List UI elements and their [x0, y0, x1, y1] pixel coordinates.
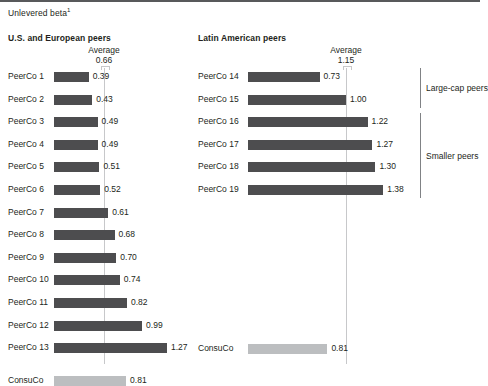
panel-latin-american: Latin American peers Average 1.15 PeerCo… — [198, 33, 480, 45]
bar-row: PeerCo 80.68 — [8, 229, 218, 240]
bar-row: PeerCo 20.43 — [8, 94, 218, 105]
bar — [248, 344, 327, 354]
bar — [54, 72, 89, 82]
average-value-right: 1.15 — [338, 55, 355, 65]
bar — [54, 253, 116, 263]
bar-row-label: PeerCo 18 — [198, 161, 239, 172]
bar-row-label: PeerCo 11 — [8, 297, 48, 308]
bar-row-label: PeerCo 19 — [198, 184, 239, 195]
bracket-line — [420, 113, 421, 198]
bar-row-label: PeerCo 12 — [8, 320, 49, 331]
bar-value-label: 0.70 — [120, 252, 137, 263]
bar — [54, 208, 108, 218]
bar — [54, 376, 126, 386]
chart-subtitle: Unlevered beta1 — [8, 7, 71, 18]
bar-row: PeerCo 110.82 — [8, 297, 218, 308]
bar-value-label: 0.49 — [102, 116, 119, 127]
bar — [54, 343, 167, 353]
average-line-right — [346, 68, 347, 364]
bar-row: PeerCo 151.00 — [198, 94, 480, 105]
bar-value-label: 0.99 — [146, 320, 163, 331]
bar-value-label: 0.39 — [93, 71, 110, 82]
bar-row: PeerCo 120.99 — [8, 320, 218, 331]
bar-row: PeerCo 10.39 — [8, 71, 218, 82]
bar-value-label: 0.43 — [96, 94, 113, 105]
bar — [248, 140, 372, 150]
bracket-label: Large-cap peers — [426, 83, 488, 93]
bar-row: PeerCo 140.73 — [198, 71, 480, 82]
bar-row: PeerCo 60.52 — [8, 184, 218, 195]
bar-row: ConsuCo0.81 — [8, 375, 218, 386]
bar-row: PeerCo 181.30 — [198, 161, 480, 172]
bracket-label: Smaller peers — [426, 151, 478, 161]
bar-row-label: PeerCo 16 — [198, 116, 239, 127]
bar-value-label: 0.81 — [130, 375, 147, 386]
average-label-right: Average 1.15 — [306, 46, 386, 65]
bar — [54, 230, 115, 240]
bar-row: PeerCo 191.38 — [198, 184, 480, 195]
bar-row-label: PeerCo 1 — [8, 71, 44, 82]
bar-value-label: 0.74 — [124, 274, 141, 285]
bar — [54, 321, 142, 331]
bar-row: PeerCo 70.61 — [8, 207, 218, 218]
bar-row-label: PeerCo 14 — [198, 71, 239, 82]
footnote-marker: 1 — [67, 7, 70, 13]
bar-row-label: ConsuCo — [198, 343, 233, 354]
bracket-line — [420, 68, 421, 108]
bar — [54, 185, 100, 195]
bar-row: PeerCo 90.70 — [8, 252, 218, 263]
bar-row: PeerCo 40.49 — [8, 139, 218, 150]
bar-row-label: PeerCo 7 — [8, 207, 44, 218]
bar-row-label: PeerCo 10 — [8, 274, 49, 285]
bar — [248, 117, 368, 127]
bar-value-label: 0.51 — [103, 161, 120, 172]
bar-value-label: 1.30 — [379, 161, 396, 172]
bar-row: PeerCo 131.27 — [8, 342, 218, 353]
average-label-text-right: Average — [330, 45, 362, 55]
bar — [54, 162, 99, 172]
bar-row-label: ConsuCo — [8, 375, 43, 386]
bar-value-label: 1.38 — [387, 184, 404, 195]
bar-value-label: 0.81 — [331, 343, 348, 354]
bar — [54, 275, 120, 285]
bar-row-label: PeerCo 9 — [8, 252, 44, 263]
bar-row: PeerCo 171.27 — [198, 139, 480, 150]
subtitle-text: Unlevered beta — [8, 8, 67, 18]
panel-title-right: Latin American peers — [198, 33, 480, 43]
bar-row: ConsuCo0.81 — [198, 343, 480, 354]
bar-row-label: PeerCo 4 — [8, 139, 44, 150]
average-value-left: 0.66 — [96, 55, 113, 65]
bar-row-label: PeerCo 5 — [8, 161, 44, 172]
bar-value-label: 0.73 — [324, 71, 341, 82]
average-label-text-left: Average — [88, 45, 120, 55]
bar-row-label: PeerCo 3 — [8, 116, 44, 127]
bar — [54, 140, 98, 150]
bar — [248, 162, 375, 172]
panel-us-european: U.S. and European peers Average 0.66 Pee… — [8, 33, 218, 45]
bar — [54, 95, 92, 105]
bar-row-label: PeerCo 8 — [8, 229, 44, 240]
average-cap-right — [343, 66, 352, 70]
bar-row-label: PeerCo 15 — [198, 94, 239, 105]
average-cap-left — [101, 66, 110, 70]
bar-value-label: 0.49 — [102, 139, 119, 150]
bar — [54, 117, 98, 127]
bar-value-label: 1.00 — [350, 94, 367, 105]
bar-value-label: 0.52 — [104, 184, 121, 195]
bar-value-label: 0.61 — [112, 207, 129, 218]
bar — [248, 95, 346, 105]
bar-row: PeerCo 50.51 — [8, 161, 218, 172]
bar-value-label: 0.68 — [119, 229, 136, 240]
average-label-left: Average 0.66 — [64, 46, 144, 65]
bar-row-label: PeerCo 13 — [8, 342, 49, 353]
top-divider — [0, 0, 480, 2]
bar-value-label: 0.82 — [131, 297, 148, 308]
bar-row-label: PeerCo 6 — [8, 184, 44, 195]
bar — [54, 298, 127, 308]
bar-row: PeerCo 30.49 — [8, 116, 218, 127]
bar-row-label: PeerCo 2 — [8, 94, 44, 105]
panel-title-left: U.S. and European peers — [8, 33, 218, 43]
bar — [248, 185, 383, 195]
bar — [248, 72, 320, 82]
bar-value-label: 1.27 — [376, 139, 393, 150]
